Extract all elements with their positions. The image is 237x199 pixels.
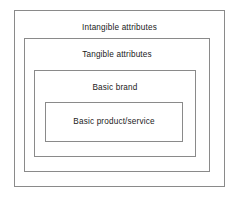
layer-label-basic-brand: Basic brand — [35, 83, 195, 93]
layer-label-basic-product-service: Basic product/service — [46, 117, 182, 127]
nested-attributes-diagram: Intangible attributes Tangible attribute… — [0, 0, 237, 199]
layer-label-tangible-attributes: Tangible attributes — [25, 50, 209, 60]
layer-basic-product-service: Basic product/service — [45, 102, 183, 142]
layer-label-intangible-attributes: Intangible attributes — [15, 23, 224, 33]
